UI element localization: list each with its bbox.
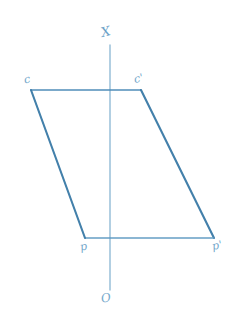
edge-right-cprime-pprime — [141, 90, 214, 238]
vertex-label-c-prime: c' — [133, 72, 144, 85]
vertex-label-p-prime: p' — [211, 239, 223, 252]
figure-canvas: X O c c' p p' — [0, 0, 235, 314]
axis-label-o: O — [100, 291, 112, 305]
geometry-drawing — [0, 0, 235, 314]
edge-left-p-c — [31, 90, 85, 238]
